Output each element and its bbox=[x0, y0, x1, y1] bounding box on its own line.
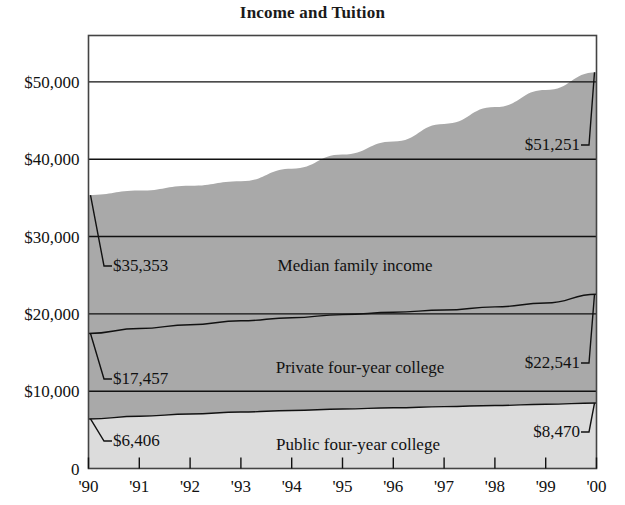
y-tick-label: $40,000 bbox=[24, 150, 79, 169]
callout-public-start: $6,406 bbox=[113, 431, 160, 450]
x-tick-label: '94 bbox=[282, 477, 303, 496]
series-label-median-family-income: Median family income bbox=[278, 256, 433, 275]
y-axis-tick-labels: 0$10,000$20,000$30,000$40,000$50,000 bbox=[24, 73, 79, 479]
x-tick-label: '97 bbox=[434, 477, 455, 496]
series-label-public-four-year-college: Public four-year college bbox=[276, 435, 440, 454]
callout-public-end: $8,470 bbox=[533, 422, 580, 441]
y-tick-label: $20,000 bbox=[24, 305, 79, 324]
x-tick-label: '90 bbox=[78, 477, 98, 496]
x-tick-label: '98 bbox=[485, 477, 505, 496]
callout-private-start: $17,457 bbox=[113, 369, 169, 388]
series-label-private-four-year-college: Private four-year college bbox=[276, 358, 445, 377]
chart-container: Income and Tuition 0$10,000$20,000$30,00… bbox=[0, 0, 625, 505]
x-tick-label: '95 bbox=[332, 477, 352, 496]
callout-income-start: $35,353 bbox=[113, 256, 168, 275]
x-axis-tick-labels: '90'91'92'93'94'95'96'97'98'99'00 bbox=[78, 477, 606, 496]
chart-plot: 0$10,000$20,000$30,000$40,000$50,000 '90… bbox=[0, 0, 625, 505]
x-tick-label: '92 bbox=[180, 477, 200, 496]
x-tick-label: '91 bbox=[129, 477, 149, 496]
y-tick-label: $30,000 bbox=[24, 228, 79, 247]
callout-income-end: $51,251 bbox=[525, 135, 580, 154]
callout-private-end: $22,541 bbox=[525, 353, 580, 372]
x-tick-label: '00 bbox=[586, 477, 606, 496]
y-tick-label: $50,000 bbox=[24, 73, 79, 92]
x-tick-label: '99 bbox=[536, 477, 556, 496]
x-tick-label: '93 bbox=[231, 477, 251, 496]
y-tick-label: $10,000 bbox=[24, 382, 79, 401]
x-tick-label: '96 bbox=[383, 477, 403, 496]
